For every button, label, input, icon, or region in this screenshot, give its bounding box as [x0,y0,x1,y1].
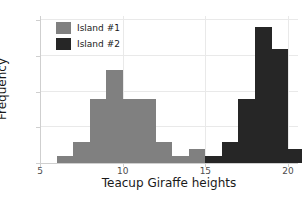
histogram-bar [205,156,222,163]
y-tick-mark [36,20,40,21]
y-tick-mark [36,56,40,57]
x-tick-label: 15 [190,166,220,176]
histogram-bar [238,99,255,163]
histogram-bar [57,156,74,163]
histogram-bar [189,149,206,163]
legend-swatch [56,38,71,50]
histogram-bar [222,142,239,163]
x-axis-title: Teacup Giraffe heights [40,176,298,190]
y-tick-mark [36,127,40,128]
histogram-bar [73,142,90,163]
histogram-bar [90,99,107,163]
y-tick-mark [36,92,40,93]
histogram-figure: 05101520 5101520 Frequency Teacup Giraff… [0,0,302,197]
y-axis-title: Frequency [0,58,9,120]
y-axis-line [40,16,41,163]
legend: Island #1Island #2 [56,20,120,52]
histogram-bar [139,99,156,163]
legend-swatch [56,22,71,34]
histogram-bar [272,49,289,163]
legend-label: Island #1 [77,23,120,33]
x-axis-line [40,163,298,164]
x-tick-label: 10 [108,166,138,176]
histogram-bar [156,142,173,163]
histogram-bar [106,70,123,163]
legend-item: Island #1 [56,20,120,36]
histogram-bar [255,27,272,163]
x-tick-label: 20 [273,166,302,176]
x-tick-label: 5 [25,166,55,176]
legend-label: Island #2 [77,39,120,49]
histogram-bar [172,156,189,163]
histogram-bar [123,99,140,163]
histogram-bar [288,149,302,163]
legend-item: Island #2 [56,36,120,52]
